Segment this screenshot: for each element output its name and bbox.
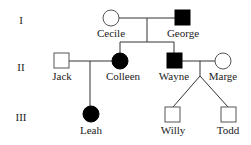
colleen-name-label: Colleen xyxy=(106,70,141,82)
generation-label-i: I xyxy=(19,14,23,26)
willy-name-label: Willy xyxy=(161,124,186,136)
leah-female-affected-symbol xyxy=(83,106,99,122)
generation-label-iii: III xyxy=(16,111,27,123)
marge-female-unaffected-symbol xyxy=(215,53,231,69)
willy-male-unaffected-symbol xyxy=(165,107,180,122)
george-male-affected-symbol xyxy=(175,10,190,25)
colleen-female-affected-symbol xyxy=(112,53,128,69)
wayne-male-affected-symbol xyxy=(167,53,182,68)
leah-name-label: Leah xyxy=(80,124,102,136)
generation-label-ii: II xyxy=(17,61,25,73)
jack-name-label: Jack xyxy=(52,70,72,82)
wayne-name-label: Wayne xyxy=(159,70,189,82)
pedigree-chart: I II III Cecile George Jack Colleen Wayn… xyxy=(0,0,251,145)
marge-name-label: Marge xyxy=(209,70,238,82)
jack-male-unaffected-symbol xyxy=(54,53,69,68)
george-name-label: George xyxy=(167,27,199,39)
todd-name-label: Todd xyxy=(217,124,240,136)
cecile-name-label: Cecile xyxy=(97,27,125,39)
todd-male-unaffected-symbol xyxy=(221,107,236,122)
cecile-female-unaffected-symbol xyxy=(103,10,119,26)
